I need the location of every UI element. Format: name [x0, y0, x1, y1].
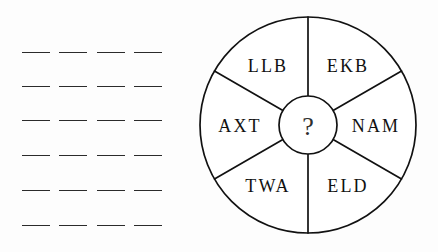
answer-blank-dash[interactable]: [97, 52, 125, 53]
answer-blank-dash[interactable]: [134, 52, 162, 53]
answer-blank-dash[interactable]: [134, 86, 162, 87]
answer-blank-row[interactable]: [22, 47, 162, 57]
answer-blank-dash[interactable]: [134, 120, 162, 121]
answer-blank-dash[interactable]: [22, 225, 50, 226]
answer-blank-dash[interactable]: [59, 86, 87, 87]
answer-blank-dash[interactable]: [59, 155, 87, 156]
answer-blank-dash[interactable]: [22, 155, 50, 156]
answer-blank-row[interactable]: [22, 81, 162, 91]
sector-axt-label: AXT: [218, 116, 262, 136]
answer-blank-dash[interactable]: [134, 155, 162, 156]
answer-blank-dash[interactable]: [97, 120, 125, 121]
sector-llb-label: LLB: [248, 56, 289, 76]
answer-blank-dash[interactable]: [97, 190, 125, 191]
answer-blank-dash[interactable]: [22, 52, 50, 53]
answer-blank-dash[interactable]: [22, 190, 50, 191]
sector-twa-label: TWA: [245, 176, 291, 196]
answer-blank-dash[interactable]: [22, 120, 50, 121]
sector-ekb-label: EKB: [327, 56, 370, 76]
sector-eld-label: ELD: [327, 176, 369, 196]
answer-blank-dash[interactable]: [59, 52, 87, 53]
puzzle-root: ?EKBNAMELDTWAAXTLLB: [0, 0, 438, 252]
answer-blank-row[interactable]: [22, 220, 162, 230]
answer-blank-dash[interactable]: [22, 86, 50, 87]
answer-blank-row[interactable]: [22, 115, 162, 125]
answer-blank-dash[interactable]: [97, 225, 125, 226]
answer-blanks-panel: [0, 0, 200, 252]
answer-blank-row[interactable]: [22, 185, 162, 195]
answer-blank-dash[interactable]: [59, 120, 87, 121]
answer-blank-dash[interactable]: [134, 190, 162, 191]
answer-blank-row[interactable]: [22, 150, 162, 160]
answer-blank-dash[interactable]: [97, 86, 125, 87]
answer-blank-dash[interactable]: [59, 190, 87, 191]
word-wheel-diagram: ?EKBNAMELDTWAAXTLLB: [190, 0, 430, 252]
answer-blank-dash[interactable]: [134, 225, 162, 226]
answer-blank-dash[interactable]: [97, 155, 125, 156]
sector-nam-label: NAM: [352, 116, 401, 136]
hub-question-mark-label: ?: [302, 112, 314, 141]
answer-blank-dash[interactable]: [59, 225, 87, 226]
